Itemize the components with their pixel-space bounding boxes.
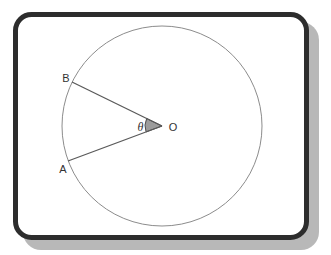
point-b-label: B [62, 72, 69, 84]
figure-stage: B A O θ [0, 0, 331, 255]
theta-angle-label: θ [138, 120, 144, 134]
point-a-label: A [59, 163, 67, 175]
center-o-label: O [169, 121, 178, 133]
geometry-figure: B A O θ [0, 0, 331, 255]
